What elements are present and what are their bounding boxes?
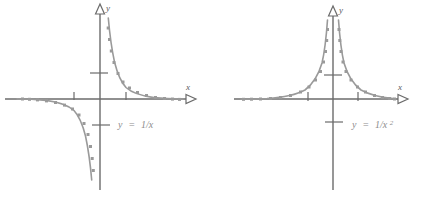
equation-operator: = (363, 119, 369, 130)
figure-root: x y (0, 0, 424, 202)
curve-branch-positive (108, 18, 183, 99)
data-point-marker (324, 50, 327, 53)
data-point-marker (250, 98, 253, 101)
data-point-marker (145, 94, 148, 97)
data-point-marker (92, 169, 95, 172)
equation-rhs: 1/x (375, 119, 388, 130)
data-point-marker (171, 98, 174, 101)
data-point-marker (373, 94, 376, 97)
equation-y: y (351, 119, 357, 130)
data-point-marker (325, 39, 328, 42)
data-point-marker (110, 50, 113, 53)
data-point-marker (28, 98, 31, 101)
data-point-marker (21, 98, 24, 101)
x-axis-arrowhead-icon (186, 95, 196, 104)
data-point-marker (108, 38, 111, 41)
data-point-marker (338, 39, 341, 42)
data-point-marker (83, 122, 86, 125)
data-point-marker (279, 96, 282, 99)
data-point-marker (322, 61, 325, 64)
data-point-marker (113, 61, 116, 64)
data-point-marker (350, 79, 353, 82)
data-point-marker (340, 50, 343, 53)
x-axis-label: x (185, 82, 190, 92)
y-axis-arrowhead-icon (96, 4, 105, 14)
data-point-marker (388, 97, 391, 100)
data-point-marker (314, 79, 317, 82)
data-point-marker (54, 101, 57, 104)
data-point-marker (269, 97, 272, 100)
data-point-marker (364, 91, 367, 94)
data-point-marker (136, 91, 139, 94)
data-point-marker (342, 61, 345, 64)
data-point-marker (338, 28, 341, 31)
data-point-marker (107, 27, 110, 30)
data-point-marker (36, 98, 39, 101)
data-point-marker (122, 81, 125, 84)
data-point-marker (381, 96, 384, 99)
equation-y: y (117, 119, 123, 130)
data-point-marker (326, 28, 329, 31)
data-point-marker (87, 133, 90, 136)
data-point-marker (78, 114, 81, 117)
data-point-marker (345, 70, 348, 73)
data-point-marker (163, 97, 166, 100)
data-point-marker (154, 96, 157, 99)
y-axis-label: y (105, 3, 110, 13)
data-point-marker (178, 98, 181, 101)
x-axis-label: x (397, 82, 402, 92)
data-point-marker (242, 98, 245, 101)
y-axis-arrowhead-icon (329, 6, 338, 16)
chart-panel-y-equals-1-over-x: x y (0, 0, 212, 202)
equation-operator: = (129, 119, 135, 130)
data-point-marker (91, 157, 94, 160)
marker-group-positive (338, 28, 397, 101)
data-point-marker (356, 86, 359, 89)
marker-group-positive (107, 27, 181, 101)
data-point-marker (71, 108, 74, 111)
equation-exponent: 2 (390, 119, 394, 127)
data-point-marker (393, 98, 396, 101)
marker-group-negative (21, 98, 95, 173)
data-point-marker (128, 87, 131, 90)
x-axis-arrowhead-icon (398, 95, 408, 104)
data-point-marker (308, 86, 311, 89)
chart-panel-y-equals-1-over-x-squared: x y (212, 0, 424, 202)
chart-svg-right: x y (212, 0, 424, 202)
equation-rhs: 1/x (141, 119, 154, 130)
equation-annotation: y = 1/x (117, 119, 154, 130)
curve-branch-negative (17, 99, 92, 180)
data-point-marker (45, 99, 48, 102)
data-point-marker (117, 72, 120, 75)
curve-branch-positive (339, 20, 394, 99)
marker-group-negative (242, 28, 329, 101)
data-point-marker (259, 98, 262, 101)
equation-annotation: y = 1/x 2 (351, 119, 394, 130)
curve-branch-negative (241, 20, 328, 99)
y-axis-label: y (338, 5, 343, 15)
data-point-marker (299, 91, 302, 94)
data-point-marker (319, 70, 322, 73)
chart-svg-left: x y (0, 0, 212, 202)
data-point-marker (289, 94, 292, 97)
data-point-marker (63, 104, 66, 107)
data-point-marker (89, 145, 92, 148)
